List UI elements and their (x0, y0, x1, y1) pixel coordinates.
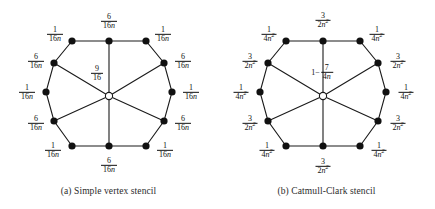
weight-label-left: 14n2 (234, 84, 249, 102)
weight-label-top-left: 14n2 (262, 26, 277, 44)
weight-label-top: 32n2 (316, 12, 331, 30)
weight-label-top-right: 116n (155, 26, 171, 44)
weight-label-top-right: 14n2 (370, 26, 385, 44)
center-vertex (105, 92, 112, 99)
center-vertex (319, 92, 326, 99)
weight-label-lower-left: 616n (28, 115, 44, 133)
weight-label-bottom: 32n2 (316, 158, 331, 176)
weight-label-left: 116n (19, 84, 35, 102)
weight-label-top-left: 116n (47, 26, 63, 44)
weight-label-center: 916 (91, 65, 103, 83)
weight-label-bottom-left: 14n2 (260, 142, 275, 160)
weight-label-upper-left: 616n (28, 53, 44, 71)
weight-label-lower-left: 32n2 (243, 115, 258, 133)
weight-label-bottom-left: 116n (45, 142, 61, 160)
figure-stencils: 616n 116n 116n 616n 616n 116n 116n 616n … (0, 0, 435, 209)
weight-label-lower-right: 616n (175, 115, 191, 133)
panel-simple-vertex-stencil: 616n 116n 116n 616n 616n 116n 116n 616n … (0, 0, 217, 209)
weight-label-lower-right: 32n2 (391, 115, 406, 133)
weight-label-upper-left: 32n2 (243, 53, 258, 71)
panel-catmull-clark-stencil: 32n2 14n2 14n2 32n2 32n2 14n2 14n2 32n2 … (218, 0, 435, 209)
weight-label-upper-right: 616n (175, 53, 191, 71)
weight-label-right: 14n2 (399, 84, 414, 102)
weight-label-right: 116n (183, 84, 199, 102)
weight-label-bottom: 616n (101, 157, 117, 175)
weight-label-upper-right: 32n2 (391, 53, 406, 71)
weight-label-bottom-right: 116n (157, 142, 173, 160)
weight-label-top: 616n (101, 13, 117, 31)
weight-label-center: 1−74n (311, 64, 333, 82)
weight-label-bottom-right: 14n2 (372, 142, 387, 160)
panel-caption: (a) Simple vertex stencil (0, 186, 217, 196)
panel-caption: (b) Catmull-Clark stencil (218, 186, 435, 196)
